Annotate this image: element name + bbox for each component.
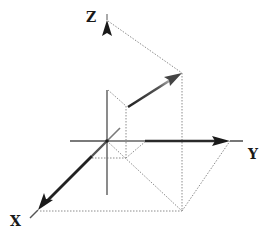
- vector-arrowhead-icon: [164, 73, 182, 86]
- axes-canvas: [0, 0, 270, 238]
- guide-inner-to-yaxis: [126, 141, 146, 158]
- guide-origin-to-floor-corner: [107, 141, 182, 211]
- vector-shaft: [128, 79, 172, 107]
- guide-floor-right: [182, 141, 230, 211]
- guide-ztip-to-vector-end: [108, 21, 182, 73]
- x-axis: [46, 156, 92, 202]
- vector: [128, 73, 182, 107]
- x-axis-near: [92, 141, 107, 156]
- projection-guides: [40, 21, 230, 211]
- y-axis-label: Y: [248, 147, 258, 161]
- x-axis-tip: [30, 210, 38, 218]
- z-axis-label: Z: [86, 10, 96, 24]
- guide-zaxis-to-vector-start: [108, 90, 126, 106]
- origin-point: [105, 139, 109, 143]
- axes: [30, 14, 243, 218]
- x-axis-back-extension: [107, 128, 120, 141]
- x-axis-label: X: [10, 214, 21, 228]
